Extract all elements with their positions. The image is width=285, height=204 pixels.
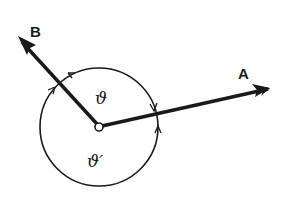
vector-b-label: B [30,23,41,40]
vector-a-label: A [238,65,249,82]
vector-angle-diagram: B A ϑ ϑ′ [0,0,285,204]
angle-theta-prime-label: ϑ′ [87,151,103,171]
origin-point [95,123,103,131]
angle-theta-label: ϑ [95,88,107,108]
vector-b-arrow [22,42,97,124]
vector-a-arrow [102,89,268,126]
